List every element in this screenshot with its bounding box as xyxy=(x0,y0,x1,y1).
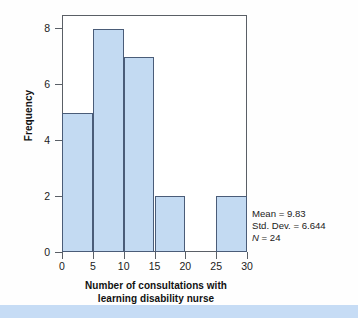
x-axis-tick xyxy=(124,252,125,259)
y-axis-title: Frequency xyxy=(23,71,34,161)
mean-text: Mean = 9.83 xyxy=(252,208,326,220)
x-axis-title: Number of consultations with learning di… xyxy=(40,279,272,305)
std-dev-text: Std. Dev. = 6.644 xyxy=(252,220,326,232)
bars-layer xyxy=(62,15,247,252)
histogram-bar xyxy=(93,29,124,252)
sample-size-value: = 24 xyxy=(259,232,281,243)
x-axis-tick-label: 5 xyxy=(78,261,108,272)
y-axis-tick-label: 8 xyxy=(10,28,50,39)
y-axis-tick-label: 0 xyxy=(10,252,50,263)
y-axis-tick-label: 2 xyxy=(10,196,50,207)
x-axis-tick xyxy=(62,252,63,259)
y-axis-tick-label-text: 4 xyxy=(44,135,50,146)
x-axis-tick xyxy=(216,252,217,259)
histogram-bar xyxy=(62,113,93,252)
statistics-annotation: Mean = 9.83 Std. Dev. = 6.644 N = 24 xyxy=(252,208,326,245)
sample-size-text: N = 24 xyxy=(252,232,326,244)
x-axis-title-line2: learning disability nurse xyxy=(40,292,272,305)
histogram-bar xyxy=(155,196,186,252)
x-axis-tick-label: 15 xyxy=(140,261,170,272)
y-axis-tick-label-text: 6 xyxy=(44,79,50,90)
bottom-band xyxy=(0,305,358,318)
histogram-bar xyxy=(124,57,155,252)
x-axis-tick-label: 25 xyxy=(201,261,231,272)
x-axis-tick-label: 20 xyxy=(170,261,200,272)
y-axis-tick-label-text: 0 xyxy=(44,246,50,257)
histogram-figure: 8 6 4 2 0 Frequency 0 5 10 15 20 25 30 N… xyxy=(0,0,358,318)
y-axis-tick xyxy=(55,140,62,141)
histogram-bar xyxy=(216,196,247,252)
y-axis-tick-label-text: 8 xyxy=(44,23,50,34)
x-axis-tick xyxy=(93,252,94,259)
y-axis-tick xyxy=(55,252,62,253)
y-axis-tick xyxy=(55,196,62,197)
x-axis-tick xyxy=(185,252,186,259)
x-axis-tick-label: 30 xyxy=(232,261,262,272)
y-axis-tick xyxy=(55,28,62,29)
x-axis-tick xyxy=(247,252,248,259)
y-axis-tick-label-text: 2 xyxy=(44,191,50,202)
y-axis-tick xyxy=(55,84,62,85)
x-axis-tick xyxy=(155,252,156,259)
x-axis-tick-label: 10 xyxy=(109,261,139,272)
x-axis-title-line1: Number of consultations with xyxy=(40,279,272,292)
sample-size-symbol: N xyxy=(252,232,259,243)
x-axis-tick-label: 0 xyxy=(47,261,77,272)
